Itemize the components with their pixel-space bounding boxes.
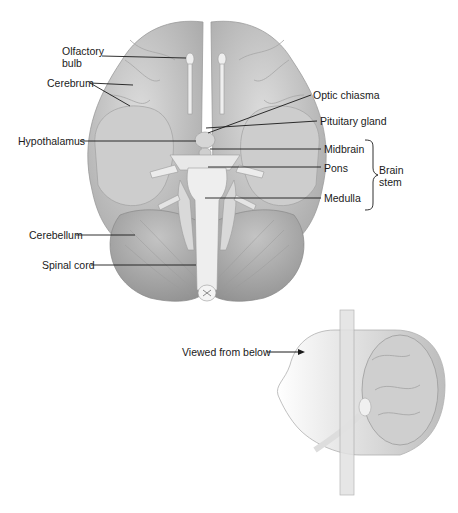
label-pons: Pons bbox=[324, 162, 348, 174]
label-medulla: Medulla bbox=[324, 192, 361, 204]
label-cerebellum: Cerebellum bbox=[29, 229, 83, 241]
viewing-direction-arrow bbox=[267, 349, 305, 355]
head-cross-section bbox=[277, 310, 445, 495]
label-pituitary-gland: Pituitary gland bbox=[320, 115, 387, 127]
label-brain-stem: Brain stem bbox=[379, 164, 404, 188]
label-brain-stem-line2: stem bbox=[379, 176, 404, 188]
brain-diagram: Olfactory bulb Cerebrum Hypothalamus Cer… bbox=[0, 0, 458, 513]
label-hypothalamus: Hypothalamus bbox=[18, 135, 85, 147]
label-spinal-cord: Spinal cord bbox=[42, 259, 95, 271]
olfactory-tracts bbox=[186, 53, 226, 114]
label-viewed-from-below: Viewed from below bbox=[182, 346, 271, 358]
label-midbrain: Midbrain bbox=[324, 143, 364, 155]
label-olfactory-bulb: Olfactory bulb bbox=[62, 45, 104, 69]
label-cerebrum: Cerebrum bbox=[47, 77, 94, 89]
label-brain-stem-line1: Brain bbox=[379, 164, 404, 176]
label-olfactory-line2: bulb bbox=[62, 57, 104, 69]
label-optic-chiasma: Optic chiasma bbox=[313, 89, 380, 101]
label-olfactory-line1: Olfactory bbox=[62, 45, 104, 57]
